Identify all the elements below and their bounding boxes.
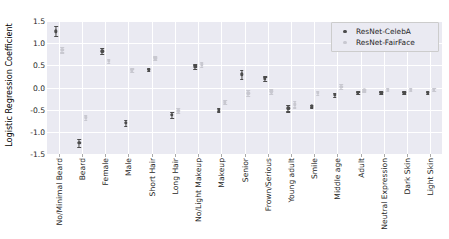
- grid-line-vertical: [175, 21, 176, 154]
- x-tick-mark: [175, 154, 176, 157]
- error-bar-cap-bottom: [409, 91, 413, 92]
- error-bar-cap-bottom: [61, 52, 65, 53]
- error-bar-cap-bottom: [101, 54, 105, 55]
- data-point-errorbar: [224, 21, 225, 154]
- legend-label: ResNet-CelebA: [354, 27, 411, 36]
- x-tick-label-text: No/Light Makeup: [194, 158, 203, 222]
- data-point-errorbar: [288, 21, 289, 154]
- x-tick-label-text: Dark Skin: [403, 158, 412, 195]
- legend[interactable]: ResNet-CelebA ResNet-FairFace: [331, 22, 439, 52]
- data-point-errorbar: [79, 21, 80, 154]
- x-tick-mark: [198, 154, 199, 157]
- data-point-errorbar: [271, 21, 272, 154]
- data-point-marker: [270, 90, 273, 93]
- error-bar-cap-bottom: [333, 97, 337, 98]
- x-tick-label-text: Short Hair: [147, 158, 156, 196]
- x-tick-mark: [268, 154, 269, 157]
- x-tick-mark: [59, 154, 60, 157]
- x-axis-ticks: No/Minimal BeardBeardFemaleMaleShort Hai…: [47, 154, 442, 239]
- x-tick-label-text: Frown/Serious: [263, 158, 272, 211]
- data-point-marker: [333, 93, 336, 96]
- grid-line-vertical: [314, 21, 315, 154]
- error-bar-cap-bottom: [286, 111, 290, 112]
- x-tick-mark: [430, 154, 431, 157]
- grid-line-vertical: [152, 21, 153, 154]
- error-bar-cap-bottom: [84, 120, 88, 121]
- error-bar-cap-bottom: [246, 96, 250, 97]
- data-point-marker: [77, 141, 80, 144]
- error-bar-cap-bottom: [379, 94, 383, 95]
- data-point-marker: [101, 49, 104, 52]
- data-point-errorbar: [195, 21, 196, 154]
- y-tick-mark: [43, 43, 46, 44]
- error-bar-cap-bottom: [316, 95, 320, 96]
- data-point-errorbar: [178, 21, 179, 154]
- x-tick-mark: [337, 154, 338, 157]
- y-tick-mark: [43, 110, 46, 111]
- grid-line-vertical: [245, 21, 246, 154]
- data-point-errorbar: [85, 21, 86, 154]
- error-bar-cap-bottom: [270, 94, 274, 95]
- error-bar-cap-bottom: [263, 81, 267, 82]
- data-point-marker: [263, 77, 266, 80]
- y-tick-label: 1.0: [9, 39, 45, 48]
- x-tick-mark: [245, 154, 246, 157]
- y-tick-mark: [43, 88, 46, 89]
- error-bar-cap-bottom: [310, 107, 314, 108]
- error-bar-cap-bottom: [217, 111, 221, 112]
- x-tick-label-text: No/Minimal Beard: [54, 158, 63, 225]
- data-point-errorbar: [218, 21, 219, 154]
- x-tick-label-text: Adult: [356, 158, 365, 178]
- data-point-errorbar: [102, 21, 103, 154]
- x-tick-label-text: Long Hair: [170, 158, 179, 194]
- error-bar-cap-bottom: [240, 79, 244, 80]
- error-bar-cap-bottom: [130, 72, 134, 73]
- y-tick-label: -0.5: [9, 105, 45, 114]
- y-tick-mark: [43, 21, 46, 22]
- error-bar-cap-bottom: [200, 67, 204, 68]
- x-tick-label-text: Makeup: [217, 158, 226, 188]
- data-point-errorbar: [125, 21, 126, 154]
- error-bar-cap-bottom: [356, 94, 360, 95]
- data-point-errorbar: [241, 21, 242, 154]
- data-point-errorbar: [132, 21, 133, 154]
- legend-marker-resnet-celeba: [336, 30, 354, 33]
- y-tick-label: -1.5: [9, 150, 45, 159]
- data-point-marker: [84, 116, 87, 119]
- error-bar-cap-bottom: [194, 69, 198, 70]
- y-tick-mark: [43, 154, 46, 155]
- data-point-marker: [61, 48, 64, 51]
- error-bar-cap-top: [240, 70, 244, 71]
- chart-figure: Logistic Regression Coefficient 1.51.00.…: [0, 0, 449, 239]
- error-bar-cap-bottom: [339, 89, 343, 90]
- x-tick-mark: [384, 154, 385, 157]
- legend-marker-resnet-fairface: [336, 41, 354, 44]
- error-bar-cap-bottom: [363, 91, 367, 92]
- error-bar-cap-top: [77, 139, 81, 140]
- x-tick-mark: [128, 154, 129, 157]
- legend-item: ResNet-FairFace: [336, 37, 434, 48]
- x-tick-label-text: Neutral Expression: [379, 158, 388, 230]
- data-point-errorbar: [62, 21, 63, 154]
- data-point-errorbar: [108, 21, 109, 154]
- error-bar-cap-bottom: [153, 60, 157, 61]
- error-bar-cap-bottom: [432, 91, 436, 92]
- data-point-errorbar: [148, 21, 149, 154]
- error-bar-cap-bottom: [223, 104, 227, 105]
- x-tick-label-text: Senior: [240, 158, 249, 182]
- x-tick-mark: [105, 154, 106, 157]
- error-bar-cap-bottom: [107, 63, 111, 64]
- x-tick-mark: [152, 154, 153, 157]
- y-tick-label: 0.0: [9, 83, 45, 92]
- legend-label: ResNet-FairFace: [354, 38, 415, 47]
- data-point-errorbar: [55, 21, 56, 154]
- grid-line-vertical: [128, 21, 129, 154]
- x-tick-label-text: Male: [124, 158, 133, 176]
- data-point-errorbar: [248, 21, 249, 154]
- grid-line-vertical: [291, 21, 292, 154]
- grid-line-vertical: [105, 21, 106, 154]
- data-point-marker: [293, 103, 296, 106]
- data-point-marker: [246, 92, 249, 95]
- grid-line-vertical: [82, 21, 83, 154]
- x-tick-mark: [407, 154, 408, 157]
